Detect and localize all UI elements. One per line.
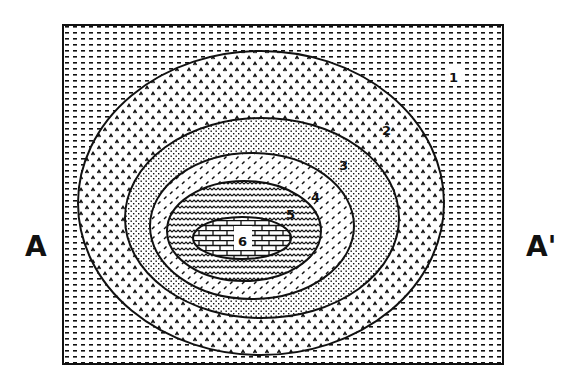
section-start-label: A [25, 230, 47, 263]
unit-3-label: 3 [339, 158, 348, 173]
unit-5-label: 5 [286, 207, 295, 222]
unit-2-label: 2 [382, 123, 391, 138]
unit-4-label: 4 [311, 190, 320, 205]
unit-6-label: 6 [238, 234, 247, 249]
unit-1-label: 1 [449, 70, 458, 85]
section-end-label: A' [526, 230, 556, 263]
geologic-map: 1 2 3 4 5 6 A A' [0, 0, 580, 387]
